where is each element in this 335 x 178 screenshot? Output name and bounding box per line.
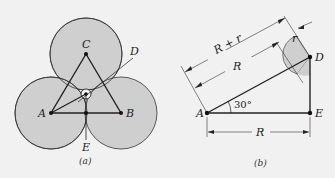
label-a: A (37, 107, 46, 120)
caption-a: (a) (79, 156, 92, 166)
label-d: D (129, 45, 139, 58)
label-b: B (125, 107, 134, 120)
label-d-b: D (314, 51, 324, 64)
figure-a: C A B D E (a) (15, 18, 157, 166)
label-r-plus-r: R + r (211, 31, 245, 57)
figure-b: R + r R r A D E 30° R (b) (181, 16, 324, 168)
label-e-b: E (314, 107, 323, 120)
label-r-small: r (292, 32, 298, 45)
label-c: C (82, 38, 91, 51)
angle-label: 30° (234, 99, 252, 110)
diagram: C A B D E (a) (0, 0, 335, 178)
line-ad (207, 57, 310, 113)
label-e: E (81, 141, 90, 154)
caption-b: (b) (254, 158, 267, 168)
label-r-diag: R (232, 60, 241, 73)
label-r-base: R (255, 126, 264, 139)
label-a-b: A (195, 107, 204, 120)
